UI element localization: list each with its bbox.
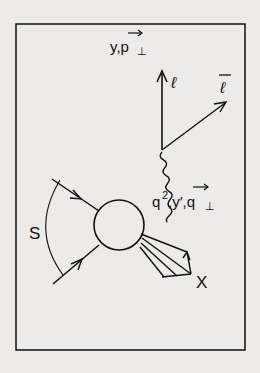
photon-line (155, 152, 177, 223)
frame (16, 24, 245, 350)
lepton-line: ℓ (157, 71, 177, 150)
interaction-blob (94, 200, 144, 250)
incoming-particle-b (53, 245, 99, 284)
svg-text:q: q (152, 193, 160, 210)
photon-label: q 2 ,y′,q ⊥ (152, 184, 215, 212)
svg-text:,y′,q: ,y′,q (168, 193, 195, 210)
kinematics-label: y,p ⊥ (110, 30, 147, 57)
energy-label: S (29, 224, 40, 243)
hadrons-label: X (196, 273, 207, 292)
lepton-label: ℓ (170, 74, 177, 91)
svg-text:⊥: ⊥ (137, 45, 147, 57)
energy-arc (46, 180, 63, 275)
svg-text:⊥: ⊥ (205, 200, 215, 212)
hadron-jet (140, 234, 191, 277)
drell-yan-diagram: y,p ⊥ ℓ ℓ q 2 ,y′,q ⊥ S (0, 0, 260, 373)
antilepton-label: ℓ (219, 79, 226, 96)
incoming-particle-a (52, 179, 99, 211)
svg-text:y,p: y,p (110, 38, 129, 55)
